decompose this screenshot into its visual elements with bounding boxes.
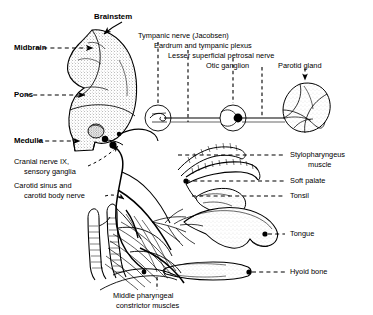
label-eardrum: Eardrum and tympanic plexus — [154, 41, 252, 50]
label-cranial-nerve-ix-line2: sensory ganglia — [24, 167, 76, 176]
tympanic-plexus-circle — [145, 105, 171, 131]
label-constrictor-line1: Middle pharyngeal — [113, 291, 173, 300]
carotid-vessels — [88, 204, 126, 280]
label-medulla: Medulla — [14, 136, 43, 145]
label-midbrain: Midbrain — [14, 43, 47, 52]
leader-brainstem — [104, 22, 122, 34]
label-tonsil: Tonsil — [290, 191, 309, 200]
pharyngeal-constrictor-drawing — [100, 210, 184, 290]
label-carotid-line1: Carotid sinus and — [14, 181, 72, 190]
label-petrosal-nerve: Lesser superficial petrosal nerve — [168, 51, 274, 60]
label-hyoid-bone: Hyoid bone — [290, 267, 327, 276]
label-brainstem: Brainstem — [94, 12, 132, 21]
label-otic-ganglion: Otic ganglion — [206, 61, 249, 70]
label-cranial-nerve-ix-line1: Cranial nerve IX, — [14, 157, 69, 166]
label-soft-palate: Soft palate — [290, 176, 325, 185]
label-carotid-line2: carotid body nerve — [24, 191, 85, 200]
leader-carotid — [105, 195, 124, 199]
label-constrictor-line2: constrictor muscles — [116, 301, 179, 310]
tongue-drawing — [152, 208, 278, 249]
figure-canvas: Brainstem Midbrain Pons Medulla Cranial … — [0, 0, 373, 315]
stylopharyngeus-muscle-drawing — [178, 143, 245, 176]
hyoid-bone-drawing — [163, 262, 252, 280]
brainstem-drawing — [68, 30, 137, 151]
label-parotid-gland: Parotid gland — [278, 61, 322, 70]
label-stylopharyngeus-line2: muscle — [308, 160, 331, 169]
parotid-gland-drawing — [283, 83, 330, 133]
label-tongue: Tongue — [290, 229, 314, 238]
label-stylopharyngeus-line1: Stylopharyngeus — [290, 150, 345, 159]
label-pons: Pons — [14, 90, 33, 99]
label-tympanic-nerve: Tympanic nerve (Jacobsen) — [138, 31, 229, 40]
